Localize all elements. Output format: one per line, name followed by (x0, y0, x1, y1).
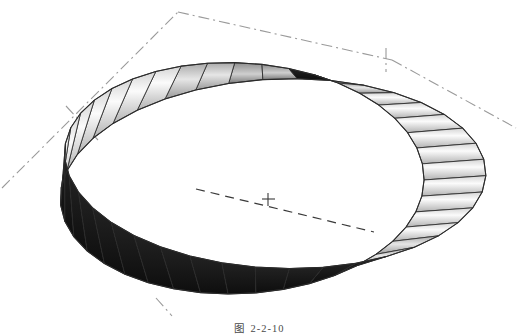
figure-caption-label: 图 (234, 323, 245, 334)
figure-caption-number: 2-2-10 (251, 323, 285, 334)
figure-caption: 图2-2-10 (0, 323, 518, 334)
figure-container: 图2-2-10 (0, 0, 518, 334)
mobius-facet (222, 263, 256, 294)
mobius-strip-illustration (0, 0, 518, 334)
